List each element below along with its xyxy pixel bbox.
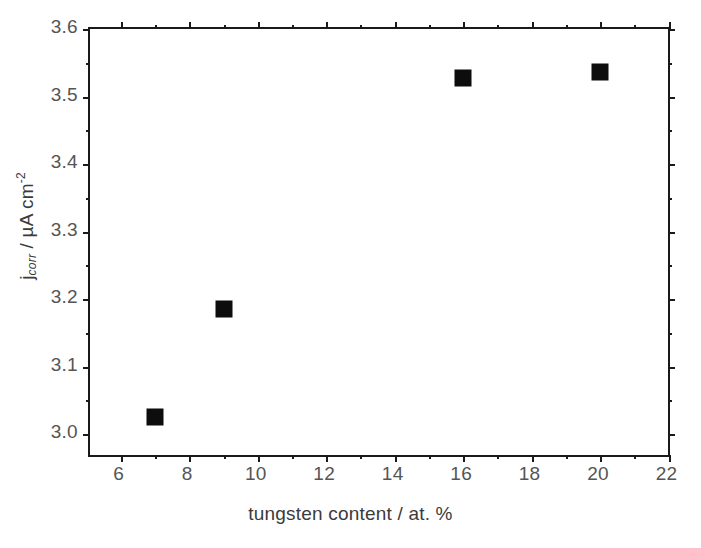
y-axis-minor-tick bbox=[86, 63, 90, 65]
y-axis-tick bbox=[83, 232, 90, 234]
y-axis-tick-label: 3.3 bbox=[51, 219, 78, 241]
y-axis-minor-tick bbox=[86, 198, 90, 200]
y-axis-tick bbox=[668, 29, 675, 31]
x-axis-tick-labels: 6810121416182022 bbox=[0, 463, 701, 493]
x-axis-minor-tick bbox=[566, 25, 568, 29]
x-axis-minor-tick bbox=[634, 455, 636, 459]
y-axis-tick bbox=[668, 232, 675, 234]
y-axis-title: jcorr / µA cm-2 bbox=[16, 86, 38, 366]
y-axis-superscript: -2 bbox=[14, 172, 28, 183]
x-axis-minor-tick bbox=[360, 25, 362, 29]
y-axis-subscript: corr bbox=[25, 254, 39, 275]
x-axis-tick bbox=[600, 455, 602, 462]
x-axis-minor-tick bbox=[566, 455, 568, 459]
x-axis-tick bbox=[121, 22, 123, 29]
x-axis-minor-tick bbox=[429, 25, 431, 29]
y-axis-separator: / bbox=[16, 237, 37, 253]
y-axis-tick-label: 3.1 bbox=[51, 354, 78, 376]
x-axis-tick-label: 10 bbox=[245, 463, 267, 485]
y-axis-minor-tick bbox=[668, 333, 672, 335]
x-axis-tick-label: 8 bbox=[182, 463, 193, 485]
y-axis-minor-tick bbox=[668, 400, 672, 402]
x-axis-tick bbox=[189, 22, 191, 29]
x-axis-tick-label: 20 bbox=[587, 463, 609, 485]
y-axis-tick bbox=[83, 434, 90, 436]
x-axis-tick bbox=[600, 22, 602, 29]
y-axis-minor-tick bbox=[86, 333, 90, 335]
x-axis-tick-label: 12 bbox=[313, 463, 335, 485]
x-axis-minor-tick bbox=[497, 25, 499, 29]
x-axis-tick bbox=[463, 455, 465, 462]
x-axis-tick-label: 18 bbox=[519, 463, 541, 485]
y-axis-minor-tick bbox=[86, 400, 90, 402]
x-axis-minor-tick bbox=[429, 455, 431, 459]
y-axis-minor-tick bbox=[86, 130, 90, 132]
y-axis-tick-label: 3.0 bbox=[51, 421, 78, 443]
data-point-marker bbox=[147, 409, 164, 426]
x-axis-minor-tick bbox=[292, 455, 294, 459]
y-axis-symbol: j bbox=[16, 275, 37, 279]
y-axis-tick bbox=[668, 434, 675, 436]
x-axis-minor-tick bbox=[224, 455, 226, 459]
y-axis-minor-tick bbox=[86, 265, 90, 267]
x-axis-tick bbox=[532, 455, 534, 462]
data-point-marker bbox=[455, 69, 472, 86]
x-axis-tick-label: 6 bbox=[113, 463, 124, 485]
y-axis-tick-label: 3.6 bbox=[51, 16, 78, 38]
x-axis-tick bbox=[258, 455, 260, 462]
y-axis-tick bbox=[83, 299, 90, 301]
x-axis-minor-tick bbox=[497, 455, 499, 459]
x-axis-tick bbox=[189, 455, 191, 462]
chart-figure: 3.03.13.23.33.43.53.6 jcorr / µA cm-2 68… bbox=[0, 0, 701, 548]
plot-area bbox=[88, 27, 670, 457]
y-axis-tick bbox=[668, 164, 675, 166]
y-axis-minor-tick bbox=[668, 130, 672, 132]
x-axis-tick-label: 22 bbox=[656, 463, 678, 485]
y-axis-tick bbox=[668, 97, 675, 99]
x-axis-tick bbox=[326, 22, 328, 29]
x-axis-title: tungsten content / at. % bbox=[0, 503, 701, 525]
y-axis-tick-label: 3.5 bbox=[51, 84, 78, 106]
x-axis-minor-tick bbox=[155, 25, 157, 29]
y-axis-tick bbox=[83, 164, 90, 166]
x-axis-minor-tick bbox=[224, 25, 226, 29]
x-axis-minor-tick bbox=[155, 455, 157, 459]
x-axis-tick bbox=[463, 22, 465, 29]
x-axis-tick-label: 14 bbox=[382, 463, 404, 485]
x-axis-minor-tick bbox=[669, 25, 671, 29]
y-axis-unit: µA cm bbox=[16, 183, 37, 237]
y-axis-tick bbox=[668, 367, 675, 369]
x-axis-minor-tick bbox=[634, 25, 636, 29]
y-axis-tick bbox=[83, 97, 90, 99]
x-axis-tick bbox=[258, 22, 260, 29]
x-axis-tick bbox=[395, 22, 397, 29]
x-axis-minor-tick bbox=[360, 455, 362, 459]
y-axis-minor-tick bbox=[668, 63, 672, 65]
x-axis-minor-tick bbox=[292, 25, 294, 29]
y-axis-tick bbox=[83, 367, 90, 369]
data-point-marker bbox=[592, 63, 609, 80]
y-axis-minor-tick bbox=[668, 265, 672, 267]
y-axis-minor-tick bbox=[668, 198, 672, 200]
x-axis-tick-label: 16 bbox=[450, 463, 472, 485]
y-axis-tick-label: 3.2 bbox=[51, 286, 78, 308]
x-axis-tick bbox=[121, 455, 123, 462]
x-axis-tick bbox=[395, 455, 397, 462]
data-point-marker bbox=[215, 301, 232, 318]
x-axis-tick bbox=[326, 455, 328, 462]
x-axis-minor-tick bbox=[669, 455, 671, 459]
y-axis-tick-label: 3.4 bbox=[51, 151, 78, 173]
y-axis-tick bbox=[83, 29, 90, 31]
y-axis-tick bbox=[668, 299, 675, 301]
x-axis-tick bbox=[532, 22, 534, 29]
